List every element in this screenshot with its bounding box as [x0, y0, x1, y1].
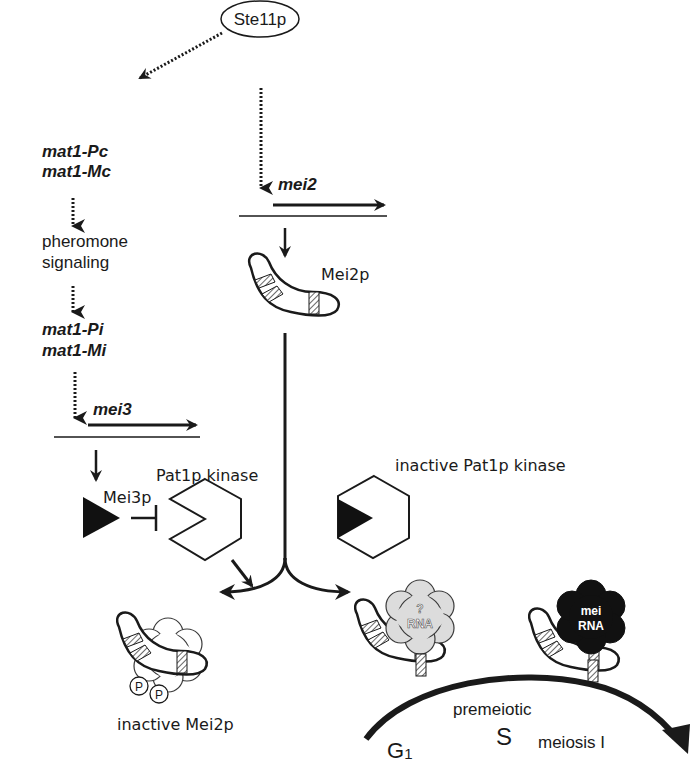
- phosphate-2-icon: P: [150, 685, 168, 703]
- ste11p-label: Ste11p: [234, 10, 287, 29]
- meiosis-i-label: meiosis I: [538, 733, 605, 752]
- mat1-pc-gene: mat1-Pc: [42, 142, 109, 161]
- mei2-gene-label: mei2: [278, 175, 317, 194]
- s-phase-label: S: [496, 723, 512, 750]
- mei2p-label: Mei2p: [321, 265, 369, 284]
- mei2p-meirna-complex: mei RNA: [529, 580, 625, 682]
- svg-text:RNA: RNA: [578, 619, 604, 633]
- mei2p-protein-icon: [249, 253, 339, 315]
- ste11-to-mat1c-arrow: [140, 33, 222, 78]
- meiosis-regulation-diagram: Ste11p mat1-Pc mat1-Mc pheromone signali…: [0, 0, 691, 776]
- svg-text:?: ?: [416, 602, 423, 616]
- pat1p-phosphorylation-arrow: [232, 560, 252, 586]
- mat1-mc-gene: mat1-Mc: [42, 162, 112, 181]
- pheromone-label: pheromone: [42, 232, 128, 251]
- mei3p-label: Mei3p: [103, 488, 151, 507]
- inactive-pat1p-kinase-icon: [338, 476, 409, 558]
- ste11p-node: Ste11p: [221, 1, 299, 37]
- svg-text:RNA: RNA: [407, 617, 433, 631]
- inactive-pat1p-label: inactive Pat1p kinase: [395, 456, 566, 475]
- svg-text:P: P: [135, 680, 143, 694]
- inhibition-symbol: [131, 505, 156, 531]
- mei2p-unknown-rna-complex: ? RNA: [355, 580, 454, 676]
- signaling-label: signaling: [42, 253, 109, 272]
- pat1p-kinase-icon: [170, 479, 241, 560]
- g1-label: G1: [387, 738, 412, 763]
- mei3-gene-label: mei3: [93, 400, 132, 419]
- svg-text:P: P: [155, 688, 163, 702]
- inactive-mei2p-complex: P P: [117, 612, 207, 703]
- branch-to-inactive-arrow: [222, 558, 285, 592]
- mat1-pi-gene: mat1-Pi: [42, 320, 105, 339]
- premeiotic-label: premeiotic: [453, 700, 532, 719]
- inactive-mei2p-label: inactive Mei2p: [117, 715, 234, 734]
- mat1-mi-gene: mat1-Mi: [42, 341, 108, 360]
- branch-to-active-arrow: [285, 558, 348, 592]
- svg-text:mei: mei: [581, 604, 602, 618]
- phosphate-1-icon: P: [130, 677, 148, 695]
